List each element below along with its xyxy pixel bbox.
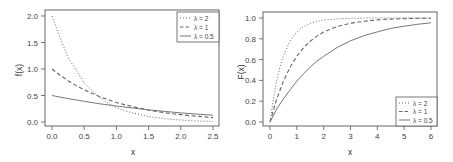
- legend-label: λ = 1: [194, 24, 209, 31]
- left-series-lambda-0.5: [52, 96, 213, 116]
- figure: 0.0 0.5 1.0 1.5 2.0 0.0 0.5 1.0 1.5 2.0 …: [0, 0, 453, 162]
- right-xtick-label: 4: [375, 132, 380, 141]
- left-y-axis-label: f(x): [14, 64, 24, 76]
- left-xtick-label: 1.0: [111, 132, 123, 141]
- left-x-axis-label: x: [131, 147, 136, 157]
- legend-label: λ = 0.5: [413, 117, 433, 124]
- right-ytick-label: 0.4: [245, 76, 257, 85]
- legend-label: λ = 2: [413, 100, 428, 107]
- right-ytick-label: 0.0: [245, 118, 257, 127]
- left-ytick-label: 1.0: [27, 65, 39, 74]
- legend-label: λ = 0.5: [194, 33, 214, 40]
- left-series-lambda-1: [52, 69, 213, 118]
- right-xtick-label: 3: [348, 132, 353, 141]
- right-ytick-label: 0.8: [245, 35, 257, 44]
- right-x-axis: [270, 126, 431, 130]
- right-xtick-label: 2: [321, 132, 326, 141]
- right-y-axis-label: F(x): [236, 64, 246, 79]
- right-ytick-label: 0.2: [245, 97, 257, 106]
- right-x-axis-label: x: [348, 147, 353, 157]
- left-legend: λ = 2 λ = 1 λ = 0.5: [177, 12, 219, 42]
- right-ytick-label: 0.6: [245, 56, 257, 65]
- left-plot-pdf: 0.0 0.5 1.0 1.5 2.0 0.0 0.5 1.0 1.5 2.0 …: [14, 10, 219, 157]
- right-xtick-label: 5: [402, 132, 407, 141]
- right-plot-cdf: 0.0 0.2 0.4 0.6 0.8 1.0 0 1 2 3 4 5 6 x …: [236, 12, 437, 157]
- left-ytick-label: 0.5: [27, 92, 39, 101]
- left-x-axis: [52, 126, 213, 130]
- left-xtick-label: 2.0: [175, 132, 187, 141]
- right-xtick-label: 6: [429, 132, 434, 141]
- right-y-axis: [259, 18, 263, 122]
- legend-label: λ = 2: [194, 15, 209, 22]
- left-ytick-label: 0.0: [27, 118, 39, 127]
- right-legend: λ = 2 λ = 1 λ = 0.5: [396, 97, 437, 126]
- right-xtick-label: 0: [268, 132, 273, 141]
- left-xtick-label: 1.5: [143, 132, 155, 141]
- left-ytick-label: 2.0: [27, 12, 39, 21]
- left-y-axis: [41, 16, 45, 122]
- left-ytick-label: 1.5: [27, 39, 39, 48]
- right-xtick-label: 1: [295, 132, 300, 141]
- left-xtick-label: 0.0: [46, 132, 58, 141]
- left-xtick-label: 2.5: [207, 132, 219, 141]
- right-ytick-label: 1.0: [245, 14, 257, 23]
- legend-label: λ = 1: [413, 108, 428, 115]
- left-xtick-label: 0.5: [79, 132, 91, 141]
